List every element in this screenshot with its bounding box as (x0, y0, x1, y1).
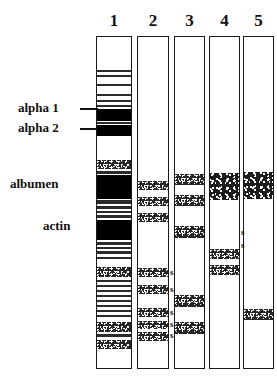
gel-band (97, 334, 131, 337)
gel-band (244, 309, 273, 320)
band-label-albumen: albumen (10, 177, 58, 190)
gel-band (138, 268, 168, 277)
leader-line-alpha-1 (80, 108, 98, 110)
lane-number-4: 4 (209, 12, 240, 29)
lane-number-5: 5 (243, 12, 274, 29)
band-label-alpha-2: alpha 2 (18, 121, 59, 134)
gel-band (175, 295, 204, 307)
gel-band (97, 100, 131, 102)
gel-band (97, 305, 131, 307)
gel-band (138, 181, 168, 190)
gel-band (97, 109, 131, 121)
gel-band (97, 285, 131, 287)
gel-band (97, 171, 131, 174)
lane-number-1: 1 (96, 12, 132, 29)
gel-lane-5 (243, 36, 274, 369)
band-label-actin: actin (43, 219, 70, 232)
lane-number-2: 2 (137, 12, 169, 29)
gel-band (175, 322, 204, 334)
gel-band (97, 295, 131, 297)
gel-band (97, 220, 131, 240)
lane-number-3: 3 (174, 12, 205, 29)
gel-band (138, 285, 168, 294)
gel-band (97, 175, 131, 199)
gel-band (175, 174, 204, 185)
s-band-marker: s (241, 241, 245, 250)
gel-band (97, 70, 131, 72)
gel-lane-1 (96, 36, 132, 369)
gel-lane-3 (174, 36, 205, 369)
gel-lane-4 (209, 36, 240, 369)
gel-band (97, 75, 131, 77)
gel-electrophoresis-figure: 1 2 3 4 5 alpha 1 alpha 2 albumen actin … (0, 0, 277, 386)
gel-band (210, 249, 239, 259)
gel-band (97, 257, 131, 259)
gel-band (175, 195, 204, 206)
gel-band (138, 197, 168, 206)
gel-band (97, 267, 131, 277)
gel-band (97, 160, 131, 169)
gel-band (138, 213, 168, 222)
gel-band (138, 332, 168, 341)
gel-band (97, 125, 131, 136)
s-band-marker: s (170, 285, 174, 294)
s-band-marker: s (170, 331, 174, 340)
gel-band (97, 215, 131, 218)
s-band-marker: s (170, 268, 174, 277)
gel-band (97, 251, 131, 254)
gel-band (210, 265, 239, 275)
gel-band (97, 310, 131, 312)
s-band-marker: s (170, 308, 174, 317)
gel-band (97, 242, 131, 245)
s-band-marker: s (241, 228, 245, 237)
gel-band (138, 308, 168, 317)
gel-band (97, 300, 131, 302)
gel-band (97, 84, 131, 86)
gel-band (97, 122, 131, 124)
gel-lane-2 (137, 36, 169, 369)
gel-band (97, 247, 131, 249)
gel-band (97, 94, 131, 96)
band-label-alpha-1: alpha 1 (18, 101, 59, 114)
gel-band (97, 340, 131, 349)
gel-band (97, 290, 131, 292)
leader-line-alpha-2 (80, 128, 98, 130)
gel-band (244, 172, 273, 199)
gel-band (97, 315, 131, 317)
gel-band (175, 226, 204, 238)
gel-band (97, 105, 131, 107)
gel-band (97, 280, 131, 282)
s-band-marker: s (170, 320, 174, 329)
gel-band (97, 206, 131, 209)
gel-band (97, 200, 131, 204)
gel-band (97, 322, 131, 332)
gel-band (138, 321, 168, 329)
gel-band (210, 173, 239, 200)
gel-band (97, 211, 131, 213)
